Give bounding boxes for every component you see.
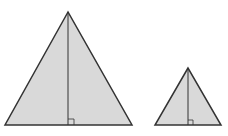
diagram-canvas (0, 0, 228, 136)
small-triangle (155, 68, 221, 125)
large-triangle (5, 12, 132, 125)
